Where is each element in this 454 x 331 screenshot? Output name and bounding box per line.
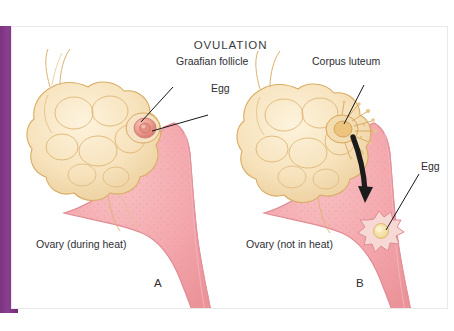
panel-a-graphics	[27, 49, 212, 309]
page-spine-gap	[0, 0, 18, 26]
label-egg-a: Egg	[211, 82, 230, 94]
label-corpus-luteum: Corpus luteum	[312, 55, 380, 67]
label-ovary-not-in-heat: Ovary (not in heat)	[246, 238, 333, 250]
label-graafian-follicle: Graafian follicle	[176, 55, 248, 67]
panel-a-graafian-follicle	[126, 113, 160, 143]
label-egg-b: Egg	[421, 160, 440, 172]
figure-panel: OVULATION	[11, 26, 448, 309]
panel-letter-b: B	[356, 277, 364, 289]
ovulation-illustration	[12, 27, 448, 309]
panel-a-egg-dot	[140, 123, 151, 133]
panel-letter-a: A	[154, 277, 162, 289]
caption-bar: FIGURE 10-7 The process of ovulation.	[0, 313, 454, 331]
panel-b-graphics	[237, 51, 419, 309]
figure-page: OVULATION	[0, 0, 454, 331]
label-ovary-during-heat: Ovary (during heat)	[36, 238, 126, 250]
